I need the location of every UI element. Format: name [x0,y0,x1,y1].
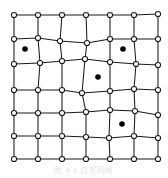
mesh-edge-horizontal [62,112,86,113]
mesh-edge-vertical [134,64,136,89]
mesh-node [35,133,40,138]
mesh-node [59,87,64,92]
mesh-node [107,12,112,17]
mesh-node [35,35,40,40]
mesh-marker-point [95,74,101,80]
mesh-node [155,62,160,67]
mesh-node [131,12,136,17]
mesh-node [107,107,112,112]
mesh-node [59,133,64,138]
mesh-edge-horizontal [82,91,110,93]
mesh-node [35,12,40,17]
mesh-node [155,11,160,16]
mesh-edge-horizontal [62,136,86,137]
mesh-marker-point [120,46,126,52]
mesh-node [155,36,160,41]
mesh-node [131,86,136,91]
mesh-node [37,60,42,65]
mesh-node [35,110,40,115]
mesh-edge-vertical [134,39,136,64]
mesh-node [131,36,136,41]
mesh-edge-vertical [38,38,40,63]
mesh-node [59,12,64,17]
mesh-node [82,56,87,61]
mesh-node [107,59,112,64]
mesh-node [35,156,40,161]
mesh-edge-vertical [109,138,110,159]
mesh-node [35,87,40,92]
mesh-node [106,135,111,140]
mesh-edge-horizontal [135,111,158,115]
mesh-node [83,156,88,161]
mesh-node [107,36,112,41]
mesh-node [131,133,136,138]
mesh-edge-vertical [82,59,85,93]
mesh-edge-horizontal [40,61,62,63]
mesh-diagram [0,0,168,165]
mesh-node [83,12,88,17]
figure-caption-text: 图 4 4 边形网格 [0,165,168,176]
mesh-edge-vertical [86,15,87,43]
mesh-edge-horizontal [14,63,40,64]
mesh-edge-vertical [60,15,62,41]
mesh-edge-horizontal [62,59,85,61]
mesh-node [11,156,16,161]
mesh-edge-horizontal [86,110,110,112]
mesh-node [11,133,16,138]
mesh-node [11,61,16,66]
mesh-node [59,156,64,161]
mesh-node [131,156,136,161]
figure-container: 图 4 4 边形网格 [0,0,168,178]
mesh-node [107,88,112,93]
mesh-node [59,110,64,115]
figure-caption: 图 4 4 边形网格 [0,164,168,178]
mesh-node [59,58,64,63]
mesh-edge-vertical [38,63,40,90]
mesh-edge-horizontal [136,64,158,65]
mesh-edge-horizontal [14,38,38,39]
mesh-edge-horizontal [110,89,134,91]
mesh-marker-point [119,121,125,127]
mesh-node [11,12,16,17]
mesh-node [132,108,137,113]
mesh-edge-horizontal [85,59,110,62]
mesh-node [11,87,16,92]
mesh-edge-horizontal [134,136,158,138]
mesh-node [84,40,89,45]
mesh-nodes-layer [11,11,160,161]
mesh-edge-vertical [109,110,110,138]
mesh-node [57,38,62,43]
mesh-node [133,61,138,66]
mesh-edge-horizontal [110,110,135,111]
mesh-node [155,156,160,161]
mesh-edge-horizontal [60,41,87,43]
mesh-node [83,134,88,139]
mesh-node [11,36,16,41]
mesh-edge-horizontal [109,136,134,138]
mesh-edge-horizontal [86,137,109,138]
mesh-edge-horizontal [38,38,60,41]
mesh-node [155,87,160,92]
mesh-edge-horizontal [134,14,158,15]
mesh-edge-horizontal [134,89,158,90]
mesh-node [83,109,88,114]
mesh-node [11,110,16,115]
mesh-edge-vertical [134,89,135,111]
mesh-node [155,112,160,117]
mesh-node [155,135,160,140]
mesh-edge-horizontal [87,39,110,43]
mesh-edge-horizontal [110,62,136,64]
mesh-edge-vertical [134,111,135,136]
mesh-node [79,90,84,95]
mesh-marker-point [22,46,28,52]
mesh-node [107,156,112,161]
